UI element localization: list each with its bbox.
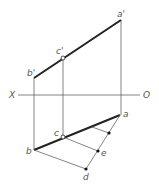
- point-c-prime: [61, 56, 65, 60]
- label-o: O: [143, 90, 150, 100]
- point-c: [61, 135, 65, 139]
- label-b-prime: b': [27, 68, 35, 78]
- line-b-d: [34, 150, 86, 169]
- projection-diagram: X O a' b' c' a b c d e: [0, 0, 159, 193]
- line-short-parallel: [92, 127, 109, 133]
- label-b: b: [26, 146, 32, 156]
- label-a-prime: a': [117, 9, 125, 19]
- label-d: d: [83, 172, 89, 182]
- line-c-e: [63, 137, 98, 151]
- point-mid: [107, 131, 110, 134]
- label-c-prime: c': [56, 46, 63, 56]
- label-e: e: [101, 148, 107, 158]
- point-d: [84, 167, 87, 170]
- line-a-prime-b-prime: [34, 20, 121, 78]
- line-a-d: [86, 115, 120, 169]
- label-a: a: [123, 109, 129, 119]
- label-x: X: [8, 90, 16, 100]
- point-e: [96, 149, 99, 152]
- label-c: c: [54, 128, 59, 138]
